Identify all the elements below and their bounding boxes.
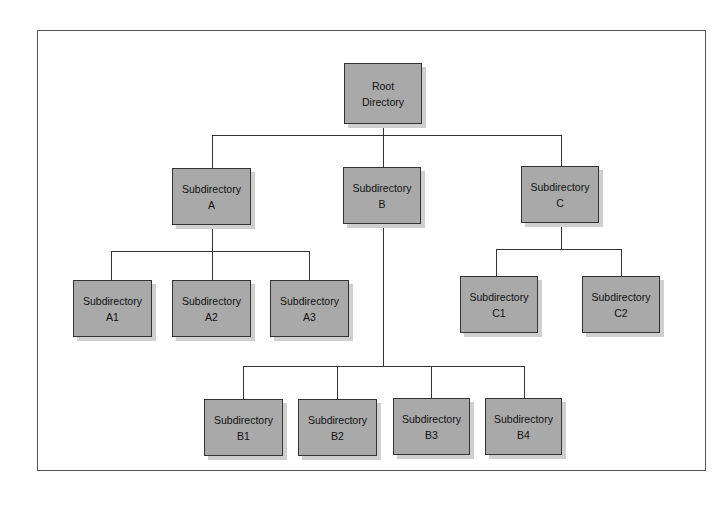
node-subdirectory-a3: Subdirectory A3 [270,280,349,337]
node-label: C1 [492,305,505,321]
node-label: Root [372,78,394,94]
connector [243,366,525,367]
connector [212,135,213,168]
node-subdirectory-b1: Subdirectory B1 [204,399,283,456]
connector [212,225,213,251]
connector [111,251,112,280]
node-subdirectory-b4: Subdirectory B4 [485,398,562,455]
node-label: C [556,195,564,211]
node-subdirectory-b: Subdirectory B [343,167,421,224]
node-label: B3 [425,427,438,443]
connector [561,135,562,166]
node-label: Subdirectory [531,179,590,195]
node-label: B2 [331,428,344,444]
connector [337,366,338,399]
node-subdirectory-b3: Subdirectory B3 [393,398,470,455]
connector [243,366,244,399]
node-label: B [378,196,385,212]
connector [309,251,310,280]
node-label: Subdirectory [308,412,367,428]
node-label: B1 [237,428,250,444]
connector [561,223,562,249]
node-subdirectory-a: Subdirectory A [172,168,251,225]
connector [524,366,525,399]
node-label: A2 [205,309,218,325]
node-label: A1 [106,309,119,325]
node-label: Subdirectory [182,181,241,197]
node-subdirectory-c: Subdirectory C [521,166,599,223]
connector [111,251,310,252]
node-subdirectory-b2: Subdirectory B2 [298,399,377,456]
node-label: Subdirectory [280,293,339,309]
connector [496,249,497,276]
node-label: Subdirectory [214,412,273,428]
node-label: Directory [362,94,404,110]
node-label: Subdirectory [83,293,142,309]
node-label: Subdirectory [353,180,412,196]
connector [431,366,432,399]
connector [212,251,213,280]
node-root-directory: Root Directory [344,63,422,124]
node-label: B4 [517,427,530,443]
connector [383,223,384,367]
node-label: Subdirectory [494,411,553,427]
connector [621,249,622,276]
node-label: A [208,197,215,213]
node-subdirectory-a2: Subdirectory A2 [172,280,251,337]
node-label: Subdirectory [592,289,651,305]
node-label: Subdirectory [470,289,529,305]
node-subdirectory-c2: Subdirectory C2 [582,276,660,333]
connector [212,135,562,136]
node-label: Subdirectory [402,411,461,427]
node-subdirectory-a1: Subdirectory A1 [73,280,152,337]
connector [383,135,384,168]
node-subdirectory-c1: Subdirectory C1 [460,276,538,333]
node-label: A3 [303,309,316,325]
connector [496,249,622,250]
connector [383,123,384,135]
node-label: Subdirectory [182,293,241,309]
node-label: C2 [614,305,627,321]
